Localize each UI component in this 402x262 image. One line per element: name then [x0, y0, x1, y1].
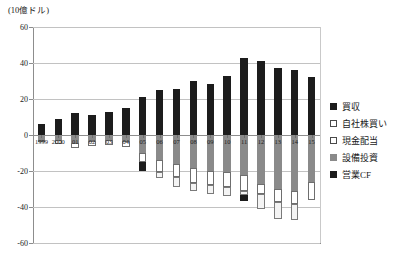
bar-segment-ocf: [240, 58, 248, 135]
bar-segment-buyback: [207, 185, 215, 194]
y-axis-tick-label: 60: [6, 23, 28, 32]
x-axis-tick-label: 07: [171, 138, 183, 145]
bar-segment-buyback: [223, 187, 231, 196]
legend-label: 買収: [342, 100, 360, 113]
x-axis-tick-label: 11: [238, 138, 250, 145]
legend-item-ocf[interactable]: 営業CF: [330, 166, 387, 183]
bar-segment-div: [240, 175, 248, 191]
legend-swatch-icon: [330, 137, 337, 144]
y-axis-tick-label: -20: [6, 167, 28, 176]
bar-segment-ocf: [156, 90, 164, 135]
x-axis-tick-label: 02: [86, 138, 98, 145]
legend-item-capex[interactable]: 設備投資: [330, 149, 387, 166]
bar-segment-div: [173, 164, 181, 178]
bar-segment-ocf: [274, 68, 282, 135]
bar-segment-buyback: [257, 194, 265, 208]
x-axis-tick-label: 06: [154, 138, 166, 145]
bar-segment-ocf: [71, 113, 79, 135]
bar-segment-ocf: [139, 97, 147, 135]
x-axis-tick-label: 05: [137, 138, 149, 145]
bar-segment-ocf: [105, 112, 113, 135]
bar-segment-div: [190, 168, 198, 182]
plot-frame-right: [320, 27, 321, 244]
x-axis-tick-label: 10: [221, 138, 233, 145]
x-axis-tick-label: 01: [69, 138, 81, 145]
gridline: [33, 243, 320, 244]
bar-segment-div: [257, 184, 265, 195]
bar-segment-buyback: [173, 177, 181, 187]
x-axis-tick-label: 09: [204, 138, 216, 145]
bar-segment-div: [291, 191, 299, 205]
bar-segment-ocf: [173, 89, 181, 135]
x-axis-tick-label: 14: [289, 138, 301, 145]
bar-segment-ocf: [308, 77, 316, 135]
bar-segment-div: [156, 160, 164, 172]
bar-segment-div: [308, 182, 316, 200]
legend-swatch-icon: [330, 154, 337, 161]
bar-segment-ocf: [55, 119, 63, 135]
bar-segment-ocf: [38, 124, 46, 135]
x-axis-tick-label: 13: [272, 138, 284, 145]
legend-item-buyback[interactable]: 自社株買い: [330, 115, 387, 132]
bar-segment-buyback: [190, 183, 198, 191]
bar-segment-div: [223, 172, 231, 187]
bar-segment-buyback: [291, 204, 299, 219]
legend-swatch-icon: [330, 120, 337, 127]
bar-segment-ocf: [291, 70, 299, 135]
y-axis-tick-label: 0: [6, 131, 28, 140]
legend-swatch-icon: [330, 103, 337, 110]
legend-swatch-icon: [330, 171, 337, 178]
legend-item-acq[interactable]: 買収: [330, 98, 387, 115]
bar-segment-ocf: [223, 76, 231, 135]
bar-segment-buyback: [274, 202, 282, 219]
y-axis-tick-label: -40: [6, 203, 28, 212]
bar-segment-ocf: [207, 84, 215, 135]
x-axis-tick-label: 15: [306, 138, 318, 145]
legend-label: 設備投資: [342, 151, 378, 164]
bar-segment-div: [139, 153, 147, 162]
bar-segment-ocf: [122, 108, 130, 135]
x-axis-tick-label: 12: [255, 138, 267, 145]
legend-label: 営業CF: [342, 168, 371, 181]
bar-segment-acq: [240, 195, 248, 200]
bar-segment-div: [274, 189, 282, 202]
y-axis-tick-label: -60: [6, 239, 28, 248]
x-axis-tick-label: 08: [187, 138, 199, 145]
x-axis-tick-label: 04: [120, 138, 132, 145]
legend-item-div[interactable]: 現金配当: [330, 132, 387, 149]
bar-segment-acq: [139, 162, 147, 171]
legend-label: 自社株買い: [342, 117, 387, 130]
x-axis-tick-label: 2000: [48, 138, 68, 145]
legend-label: 現金配当: [342, 134, 378, 147]
y-axis-tick-label: 40: [6, 59, 28, 68]
bar-segment-buyback: [156, 172, 164, 178]
x-axis-tick-label: 03: [103, 138, 115, 145]
y-axis-unit-label: (10億ドル): [8, 3, 49, 15]
chart-root: (10億ドル) 6040200-20-40-60 199920000102030…: [0, 0, 402, 262]
y-axis-tick-label: 20: [6, 95, 28, 104]
bar-segment-div: [207, 171, 215, 185]
chart-legend: 買収自社株買い現金配当設備投資営業CF: [330, 98, 387, 183]
bar-segment-ocf: [257, 61, 265, 135]
bar-segment-ocf: [190, 81, 198, 135]
bar-segment-ocf: [88, 115, 96, 135]
